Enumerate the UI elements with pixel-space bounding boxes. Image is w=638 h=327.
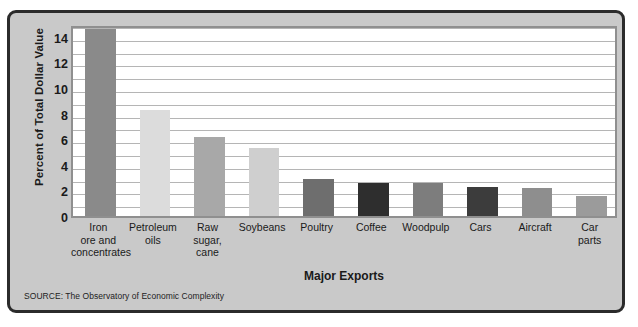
x-axis-label-line: Woodpulp xyxy=(399,221,454,234)
bar xyxy=(413,183,444,216)
bar xyxy=(358,183,389,216)
x-axis-label-line: cane xyxy=(180,246,235,259)
x-axis-category-label: Aircraft xyxy=(508,221,563,234)
x-axis-category-label: Cars xyxy=(453,221,508,234)
x-axis-category-label: Petroleumoils xyxy=(126,221,181,246)
y-axis-tick-label: 14 xyxy=(40,33,68,45)
x-axis-category-label: Ironore andconcentrates xyxy=(71,221,126,259)
bar xyxy=(467,187,498,216)
x-axis-label-line: sugar, xyxy=(180,234,235,247)
bar xyxy=(576,196,607,216)
x-axis-label-line: Car xyxy=(562,221,617,234)
bar xyxy=(140,110,171,216)
x-axis-label-line: Iron xyxy=(71,221,126,234)
x-axis-category-label: Woodpulp xyxy=(399,221,454,234)
x-axis-label-line: Cars xyxy=(453,221,508,234)
y-axis-tick-label: 10 xyxy=(40,84,68,96)
y-axis-tick-label: 2 xyxy=(40,186,68,198)
x-axis-title: Major Exports xyxy=(71,269,617,283)
bar xyxy=(249,148,280,216)
y-axis-tick-label: 6 xyxy=(40,135,68,147)
x-axis-label-line: Soybeans xyxy=(235,221,290,234)
bar xyxy=(85,29,116,216)
x-axis-label-line: ore and xyxy=(71,234,126,247)
x-axis-label-line: Poultry xyxy=(289,221,344,234)
x-axis-label-line: Petroleum xyxy=(126,221,181,234)
x-axis-category-label: Carparts xyxy=(562,221,617,246)
x-axis-label-line: Raw xyxy=(180,221,235,234)
x-axis-label-line: oils xyxy=(126,234,181,247)
plot-area xyxy=(71,26,617,218)
y-axis-tick-labels: 02468101214 xyxy=(40,26,68,218)
bar-series xyxy=(73,28,615,216)
y-axis-tick-label: 8 xyxy=(40,110,68,122)
source-note: SOURCE: The Observatory of Economic Comp… xyxy=(24,291,224,301)
chart-figure: Percent of Total Dollar Value 0246810121… xyxy=(7,10,625,313)
x-axis-category-label: Rawsugar,cane xyxy=(180,221,235,259)
y-axis-tick-label: 12 xyxy=(40,58,68,70)
bar xyxy=(303,179,334,216)
bar xyxy=(522,188,553,216)
bar xyxy=(194,137,225,216)
y-axis-tick-label: 4 xyxy=(40,161,68,173)
x-axis-label-line: concentrates xyxy=(71,246,126,259)
x-axis-category-label: Poultry xyxy=(289,221,344,234)
y-axis-tick-label: 0 xyxy=(40,212,68,224)
x-axis-category-label: Coffee xyxy=(344,221,399,234)
x-axis-category-labels: Ironore andconcentratesPetroleumoilsRaws… xyxy=(71,221,617,267)
x-axis-label-line: Coffee xyxy=(344,221,399,234)
x-axis-label-line: parts xyxy=(562,234,617,247)
x-axis-category-label: Soybeans xyxy=(235,221,290,234)
x-axis-label-line: Aircraft xyxy=(508,221,563,234)
